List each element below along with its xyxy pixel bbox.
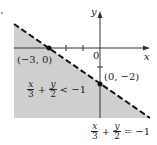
point-b-label: (0, −2) bbox=[104, 72, 139, 82]
inequality-label: x 3 + y 2 < −1 bbox=[27, 80, 86, 99]
y-axis-arrow-icon bbox=[98, 11, 103, 18]
fraction-x-over-3: x 3 bbox=[91, 122, 99, 141]
x-axis-label: x bbox=[144, 52, 150, 62]
origin-label: 0 bbox=[93, 51, 99, 61]
y-axis-label: y bbox=[91, 7, 97, 17]
fraction-y-over-2: y 2 bbox=[113, 122, 121, 141]
point-a-label: (−3, 0) bbox=[17, 55, 52, 65]
point-0-neg2 bbox=[98, 82, 103, 87]
point-neg3-0 bbox=[47, 46, 52, 51]
fraction-x-over-3: x 3 bbox=[27, 80, 35, 99]
x-axis-arrow-icon bbox=[143, 46, 150, 51]
equation-label: x 3 + y 2 = −1 bbox=[91, 122, 150, 141]
figure-marker bbox=[1, 12, 3, 14]
fraction-y-over-2: y 2 bbox=[49, 80, 57, 99]
